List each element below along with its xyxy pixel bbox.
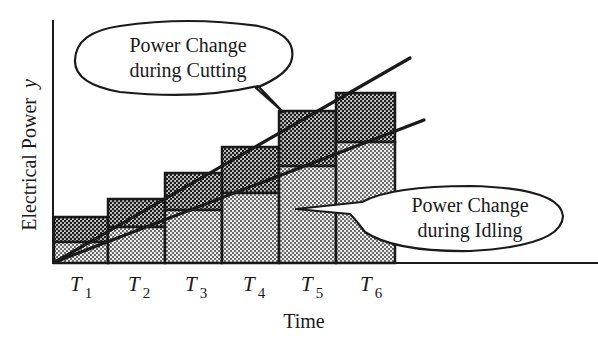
x-axis-label: Time [283,310,325,332]
callout-cutting-line1: Power Change [129,34,246,57]
power-diagram: Power Change during Cutting Power Change… [0,0,598,347]
tick-label-t2: T2 [128,272,150,301]
y-axis-label: Electrical Power y [18,79,41,231]
bars [54,93,395,263]
tick-label-t4: T4 [243,272,266,301]
callout-idling-line1: Power Change [411,194,528,217]
bar-t5 [279,111,336,263]
tick-label-t3: T3 [185,272,207,301]
callout-cutting: Power Change during Cutting [75,21,292,112]
y-axis-symbol: y [18,79,41,90]
tick-label-t5: T5 [301,272,323,301]
callout-idling-line2: during Idling [418,219,523,242]
svg-text:Electrical Power y: Electrical Power y [18,79,41,231]
bar-t4 [222,147,279,263]
time-step-labels: T1 T2 T3 T4 T5 T6 [70,272,383,301]
callout-cutting-line2: during Cutting [129,59,246,82]
tick-label-t1: T1 [70,272,92,301]
y-axis-label-text: Electrical Power [18,98,40,231]
tick-label-t6: T6 [360,272,383,301]
